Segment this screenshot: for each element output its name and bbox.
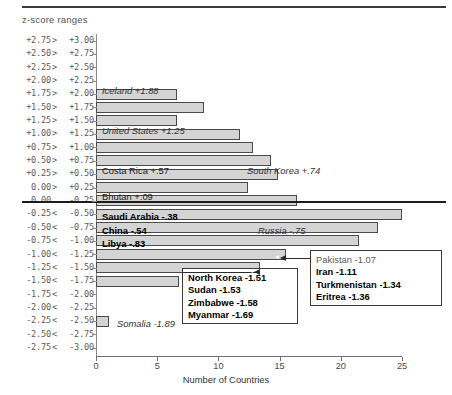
y-tick-mark [92, 134, 97, 135]
y-axis-title: z-score ranges [22, 14, 88, 25]
callout-line: Zimbabwe -1.58 [188, 297, 297, 309]
y-tick-label: -2.25<-2.50 [6, 314, 94, 327]
y-tick-label: 0.00>+0.25 [6, 181, 94, 194]
bar-annotation: Saudi Arabia -.38 [102, 211, 178, 222]
callout-line: Myanmar -1.69 [188, 309, 297, 321]
callout-pakistan-group: Pakistan -1.07Iran -1.11Turkmenistan -1.… [310, 250, 442, 306]
x-axis-ticks: 0510152025 [0, 357, 452, 367]
y-tick-mark [92, 81, 97, 82]
y-tick-label: -0.25<-0.50 [6, 207, 94, 220]
y-tick-label: -2.00<-2.25 [6, 301, 94, 314]
y-tick-label: -2.75<-3.00 [6, 341, 94, 354]
y-tick-mark [92, 54, 97, 55]
y-tick-label: +1.50>+1.75 [6, 101, 94, 114]
y-tick-mark [92, 294, 97, 295]
y-tick-mark [92, 281, 97, 282]
bar-annotation: Bhutan +.09 [102, 191, 153, 202]
x-axis-title: Number of Countries [0, 374, 452, 385]
callout-arrow-icon [280, 255, 286, 261]
x-tick-label: 5 [155, 361, 160, 371]
y-tick-mark [92, 107, 97, 108]
top-rule [22, 6, 446, 8]
bar-annotation: Russia -.75 [258, 225, 305, 236]
y-axis-tick-labels: +2.75>+3.00+2.50>+2.75+2.25>+2.50+2.00>+… [6, 34, 94, 354]
bar-annotation: Costa Rica +.57 [102, 165, 169, 176]
y-tick-label: -0.75<-1.00 [6, 234, 94, 247]
x-tick-label: 10 [213, 361, 223, 371]
callout-line: Iran -1.11 [316, 266, 441, 278]
bar [96, 316, 109, 327]
y-tick-label: +2.50>+2.75 [6, 47, 94, 60]
bar [96, 102, 204, 113]
bar [96, 142, 253, 153]
y-tick-label: +1.00>+1.25 [6, 127, 94, 140]
y-tick-mark [92, 121, 97, 122]
y-tick-mark [92, 174, 97, 175]
bar-annotation: United States +1.25 [102, 125, 185, 136]
y-tick-label: +2.75>+3.00 [6, 34, 94, 47]
y-tick-label: +1.75>+2.00 [6, 87, 94, 100]
y-tick-label: +0.75>+1.00 [6, 141, 94, 154]
zero-divider-line [22, 201, 446, 203]
y-tick-label: -1.75<-2.00 [6, 288, 94, 301]
callout-line: North Korea -1.51 [188, 272, 297, 284]
y-tick-mark [92, 268, 97, 269]
callout-line: Turkmenistan -1.34 [316, 279, 441, 291]
callout-north-korea-group: North Korea -1.51Sudan -1.53Zimbabwe -1.… [182, 268, 298, 324]
y-tick-label: +0.50>+0.75 [6, 154, 94, 167]
y-tick-mark [92, 241, 97, 242]
x-tick-label: 0 [93, 361, 98, 371]
y-tick-mark [92, 214, 97, 215]
y-tick-label: +0.25>+0.50 [6, 167, 94, 180]
y-tick-label: +2.00>+2.25 [6, 74, 94, 87]
y-tick-mark [92, 321, 97, 322]
y-tick-label: -1.25<-1.50 [6, 261, 94, 274]
callout-line: Eritrea -1.36 [316, 291, 441, 303]
y-tick-mark [92, 147, 97, 148]
y-tick-mark [92, 308, 97, 309]
bar-annotation: Iceland +1.88 [102, 85, 159, 96]
callout-line: Pakistan -1.07 [316, 254, 441, 266]
y-tick-label: -1.00<-1.25 [6, 248, 94, 261]
x-tick-label: 25 [397, 361, 407, 371]
y-tick-label: -2.50<-2.75 [6, 328, 94, 341]
bar [96, 276, 179, 287]
y-tick-mark [92, 67, 97, 68]
y-tick-mark [92, 254, 97, 255]
chart-figure: z-score ranges +2.75>+3.00+2.50>+2.75+2.… [0, 0, 452, 395]
y-tick-mark [92, 348, 97, 349]
bar [96, 249, 286, 260]
y-tick-mark [92, 228, 97, 229]
callout-arrow-icon [254, 269, 260, 275]
y-tick-label: +2.25>+2.50 [6, 61, 94, 74]
y-tick-mark [92, 41, 97, 42]
x-tick-label: 20 [336, 361, 346, 371]
y-tick-mark [92, 201, 97, 202]
y-tick-mark [92, 334, 97, 335]
y-tick-mark [92, 161, 97, 162]
bar-annotation: South Korea +.74 [247, 165, 320, 176]
bar-annotation: Somalia -1.89 [117, 318, 175, 329]
x-tick-label: 15 [274, 361, 284, 371]
bar-annotation: Libya -.83 [102, 238, 145, 249]
y-tick-label: -0.50<-0.75 [6, 221, 94, 234]
y-tick-label: +1.25>+1.50 [6, 114, 94, 127]
y-tick-label: -1.50<-1.75 [6, 274, 94, 287]
bar-annotation: China -.54 [102, 225, 147, 236]
callout-line: Sudan -1.53 [188, 284, 297, 296]
callout-leader-line [286, 258, 310, 259]
y-tick-mark [92, 188, 97, 189]
y-tick-mark [92, 94, 97, 95]
